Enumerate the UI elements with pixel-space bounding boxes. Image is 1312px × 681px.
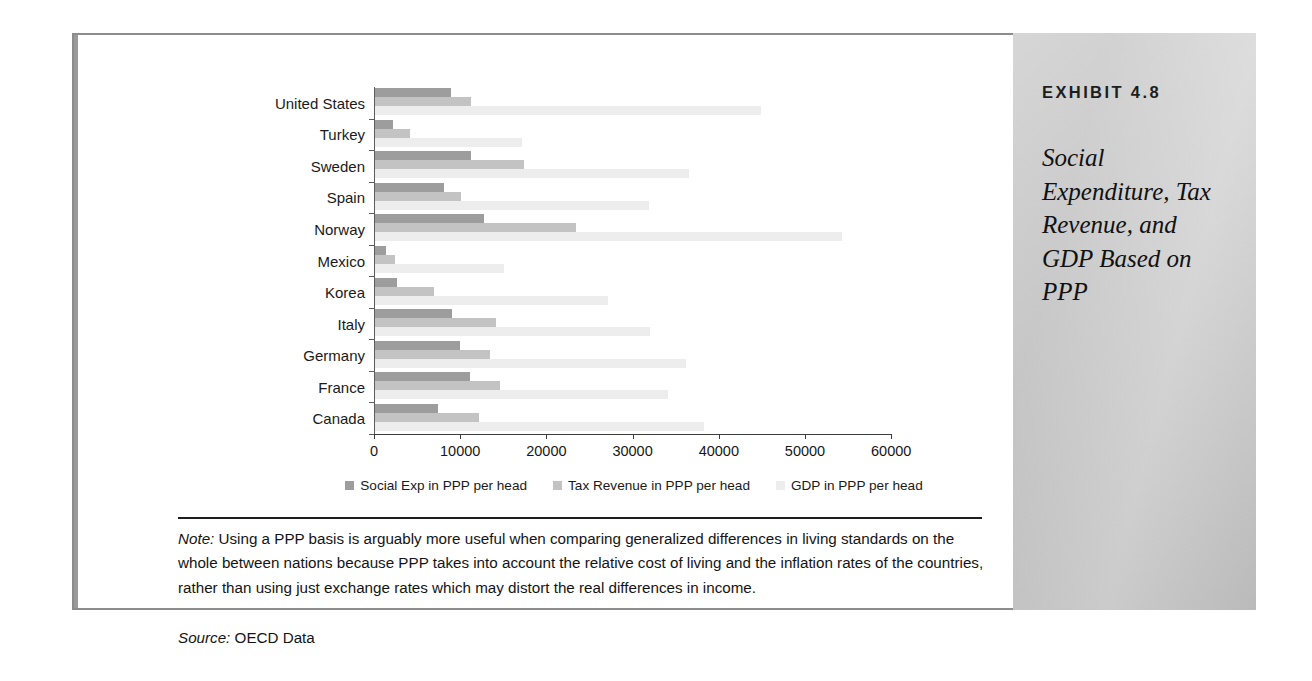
bar-tax-revenue (375, 97, 471, 106)
legend-item: GDP in PPP per head (776, 478, 923, 493)
y-axis-tick (369, 276, 374, 277)
bar-gdp (375, 106, 761, 115)
y-axis-category-label: Sweden (311, 157, 365, 174)
bar-tax-revenue (375, 129, 410, 138)
y-axis-category-label: Spain (327, 189, 365, 206)
legend-label: Social Exp in PPP per head (360, 478, 527, 493)
bar-tax-revenue (375, 381, 500, 390)
note-divider (178, 517, 982, 519)
x-axis-tick-label: 0 (370, 443, 378, 459)
y-axis-category-label: Turkey (320, 126, 365, 143)
bar-gdp (375, 359, 686, 368)
y-axis-tick (369, 119, 374, 120)
bar-social-exp (375, 214, 484, 223)
bar-gdp (375, 327, 650, 336)
y-axis-tick (369, 150, 374, 151)
y-axis-tick (369, 371, 374, 372)
x-axis-tick (546, 434, 547, 439)
y-axis-tick (369, 402, 374, 403)
source-text: OECD Data (230, 629, 314, 646)
bar-tax-revenue (375, 287, 434, 296)
y-axis-tick (369, 245, 374, 246)
x-axis-tick-label: 10000 (440, 443, 480, 459)
bar-social-exp (375, 88, 451, 97)
bar-gdp (375, 264, 504, 273)
bar-social-exp (375, 278, 397, 287)
bar-gdp (375, 232, 842, 241)
bar-gdp (375, 138, 522, 147)
x-axis-tick (891, 434, 892, 439)
y-axis-category-label: Germany (303, 347, 365, 364)
bar-social-exp (375, 341, 460, 350)
y-axis-tick (369, 182, 374, 183)
x-axis-tick (805, 434, 806, 439)
x-axis-tick-label: 30000 (612, 443, 652, 459)
legend-label: Tax Revenue in PPP per head (568, 478, 750, 493)
bar-gdp (375, 169, 689, 178)
bar-tax-revenue (375, 318, 496, 327)
y-axis-category-label: Norway (314, 220, 365, 237)
y-axis-category-label: Canada (312, 410, 365, 427)
legend-swatch-icon (553, 481, 562, 490)
legend-item: Social Exp in PPP per head (345, 478, 527, 493)
note-text: Using a PPP basis is arguably more usefu… (178, 530, 983, 596)
exhibit-title: Social Expenditure, Tax Revenue, and GDP… (1042, 141, 1232, 309)
exhibit-number: EXHIBIT 4.8 (1042, 83, 1161, 102)
chart-legend: Social Exp in PPP per headTax Revenue in… (374, 478, 894, 493)
x-axis-tick-label: 40000 (699, 443, 739, 459)
note-label: Note: (178, 530, 214, 547)
bar-gdp (375, 201, 649, 210)
y-axis-category-label: France (318, 378, 365, 395)
bar-tax-revenue (375, 255, 395, 264)
x-axis-tick (633, 434, 634, 439)
bar-tax-revenue (375, 350, 490, 359)
y-axis-tick (369, 339, 374, 340)
bar-tax-revenue (375, 223, 576, 232)
exhibit-page: 0100002000030000400005000060000United St… (0, 0, 1312, 681)
legend-item: Tax Revenue in PPP per head (553, 478, 750, 493)
bar-social-exp (375, 120, 393, 129)
bar-gdp (375, 390, 668, 399)
source-label: Source: (178, 629, 230, 646)
x-axis-tick-label: 60000 (871, 443, 911, 459)
y-axis-tick (369, 434, 374, 435)
exhibit-title-panel: EXHIBIT 4.8 Social Expenditure, Tax Reve… (1013, 33, 1256, 610)
legend-swatch-icon (776, 481, 785, 490)
bar-social-exp (375, 183, 444, 192)
bar-social-exp (375, 246, 386, 255)
bar-tax-revenue (375, 413, 479, 422)
bar-gdp (375, 422, 704, 431)
source-block: Source: OECD Data (178, 629, 315, 646)
x-axis-tick (460, 434, 461, 439)
y-axis-category-label: Italy (337, 315, 365, 332)
bar-gdp (375, 296, 608, 305)
bar-chart-plot-area: 0100002000030000400005000060000United St… (374, 87, 894, 434)
x-axis-tick (719, 434, 720, 439)
x-axis-tick-label: 50000 (785, 443, 825, 459)
bar-social-exp (375, 404, 438, 413)
bar-social-exp (375, 151, 471, 160)
bar-social-exp (375, 309, 452, 318)
legend-swatch-icon (345, 481, 354, 490)
y-axis-category-label: Mexico (317, 252, 365, 269)
legend-label: GDP in PPP per head (791, 478, 923, 493)
bar-tax-revenue (375, 192, 461, 201)
y-axis-tick (369, 213, 374, 214)
y-axis-category-label: United States (275, 94, 365, 111)
y-axis-category-label: Korea (325, 284, 365, 301)
bar-social-exp (375, 372, 470, 381)
x-axis-tick (374, 434, 375, 439)
x-axis-tick-label: 20000 (526, 443, 566, 459)
chart-container: 0100002000030000400005000060000United St… (178, 60, 978, 485)
bar-tax-revenue (375, 160, 524, 169)
y-axis-tick (369, 308, 374, 309)
note-block: Note: Using a PPP basis is arguably more… (178, 527, 993, 600)
